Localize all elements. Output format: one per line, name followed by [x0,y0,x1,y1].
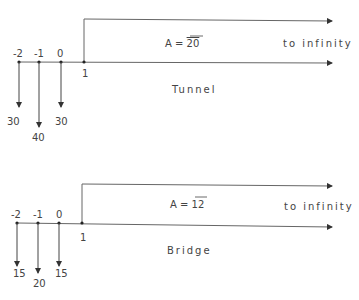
time-axis [19,62,332,63]
time-label: -2 [13,48,23,59]
time-label: 0 [57,48,63,59]
cash-flow-amount: 15 [13,268,26,279]
time-label: -1 [34,48,44,59]
time-label: 0 [56,209,62,220]
cash-flow-amount: 30 [7,116,20,127]
annuity-value: 12 [192,199,205,210]
infinity-label: to infinity [283,38,353,49]
cash-flow-amount: 30 [55,116,68,127]
time-label: 1 [82,68,88,79]
annuity-upper-arrow [84,19,332,21]
annuity-value: 20 [187,38,200,49]
cash-flow-amount: 40 [32,132,45,143]
infinity-label: to infinity [284,201,354,212]
cash-flow-amount: 20 [33,278,46,289]
time-point-dot [80,221,83,224]
cash-flow-diagrams: -2 -1 0 1 30 40 30 A = 20 to infinity Tu… [0,0,359,300]
annuity-label: A = 20 [165,38,199,49]
annuity-upper-arrow [82,184,332,186]
bridge-diagram: -2 -1 0 1 15 20 15 A = 12 to infinity Br… [11,184,354,289]
annuity-label: A = 12 [170,199,204,210]
time-label: -1 [33,209,43,220]
time-axis [17,223,332,227]
cash-flow-amount: 15 [55,268,68,279]
diagram-title: Tunnel [171,84,217,95]
time-point-dot [82,60,85,63]
tunnel-diagram: -2 -1 0 1 30 40 30 A = 20 to infinity Tu… [7,19,353,143]
time-label: -2 [11,209,21,220]
time-label: 1 [80,232,86,243]
diagram-title: Bridge [167,245,212,256]
